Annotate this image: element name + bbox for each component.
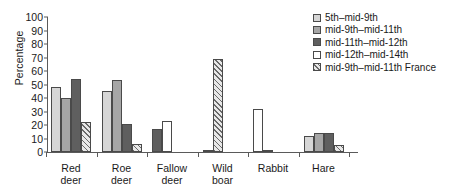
y-tick-label: 90 (13, 25, 43, 37)
x-tick-mark (349, 152, 350, 157)
y-tick-label: 0 (13, 146, 43, 158)
y-tick-mark (44, 30, 48, 31)
y-tick-label: 20 (13, 119, 43, 131)
legend-swatch-icon (313, 38, 321, 46)
y-tick-label: 70 (13, 52, 43, 64)
y-axis-line (47, 17, 48, 153)
x-tick-mark (97, 152, 98, 157)
y-tick-label: 50 (13, 79, 43, 91)
legend-swatch-icon (313, 26, 321, 34)
y-tick-label: 60 (13, 65, 43, 77)
x-tick-mark (147, 152, 148, 157)
bar (324, 133, 334, 152)
legend-swatch-icon (313, 14, 321, 22)
legend-label: 5th–mid-9th (325, 12, 378, 23)
legend-label: mid-9th–mid-11th (325, 24, 402, 35)
bar (253, 109, 263, 152)
bar (122, 124, 132, 152)
y-tick-mark (44, 84, 48, 85)
bar (314, 133, 324, 152)
bar (51, 87, 61, 152)
bar-stack (51, 17, 91, 152)
legend-item: mid-9th–mid-11th France (313, 62, 436, 73)
bar (213, 59, 223, 152)
legend-item: mid-9th–mid-11th (313, 24, 436, 35)
x-tick-mark (248, 152, 249, 157)
x-axis-line (47, 152, 358, 153)
bar-stack (102, 17, 142, 152)
plot-area: 0102030405060708090100 Red deerRoe deerF… (47, 17, 357, 152)
y-tick-mark (44, 98, 48, 99)
x-axis-label: Hare (292, 163, 356, 175)
y-tick-mark (44, 17, 48, 18)
y-tick-label: 100 (13, 11, 43, 23)
bar (263, 150, 273, 152)
legend-item: 5th–mid-9th (313, 12, 436, 23)
legend-swatch-icon (313, 51, 321, 59)
y-tick-label: 30 (13, 106, 43, 118)
bar (102, 91, 112, 152)
y-tick-mark (44, 138, 48, 139)
y-tick-label: 80 (13, 38, 43, 50)
x-tick-mark (299, 152, 300, 157)
bar (112, 80, 122, 152)
bar (71, 79, 81, 152)
legend-swatch-icon (313, 63, 321, 71)
y-tick-mark (44, 125, 48, 126)
bar-stack (253, 17, 273, 152)
chart-legend: 5th–mid-9thmid-9th–mid-11thmid-11th–mid-… (313, 12, 436, 73)
bar-stack (152, 17, 172, 152)
bar (304, 136, 314, 152)
legend-label: mid-12th–mid-14th (325, 49, 408, 60)
y-tick-mark (44, 71, 48, 72)
bar (61, 98, 71, 152)
bar (152, 129, 162, 152)
bar (334, 145, 344, 152)
bar (132, 144, 142, 152)
x-tick-mark (198, 152, 199, 157)
legend-label: mid-11th–mid-12th (325, 37, 408, 48)
y-tick-mark (44, 44, 48, 45)
bar (162, 121, 172, 152)
x-tick-mark (46, 152, 47, 157)
y-tick-label: 10 (13, 133, 43, 145)
bar-chart: Percentage 0102030405060708090100 Red de… (0, 0, 450, 194)
bar (203, 150, 213, 152)
y-tick-label: 40 (13, 92, 43, 104)
legend-item: mid-11th–mid-12th (313, 37, 436, 48)
y-tick-mark (44, 57, 48, 58)
y-tick-mark (44, 111, 48, 112)
bar (81, 122, 91, 152)
bar-stack (203, 17, 223, 152)
legend-label: mid-9th–mid-11th France (325, 62, 436, 73)
legend-item: mid-12th–mid-14th (313, 49, 436, 60)
